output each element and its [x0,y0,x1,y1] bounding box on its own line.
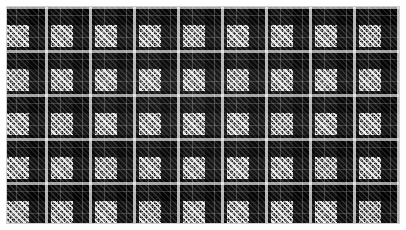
houndstooth-weave-layer [7,7,399,223]
white-mount-border [0,0,406,230]
inner-pinstripe-layer [7,7,399,223]
lighting-vignette-layer [7,7,399,223]
glen-plaid-cloth [7,7,399,223]
ghost-weave-layer [7,7,399,223]
white-overcheck-layer [7,7,399,223]
cloth-ground-layer [7,7,399,223]
dark-column-block-layer [7,7,399,223]
dark-row-block-layer [7,7,399,223]
swatch-root: Black and white glen plaid (Prince of Wa… [0,0,406,230]
